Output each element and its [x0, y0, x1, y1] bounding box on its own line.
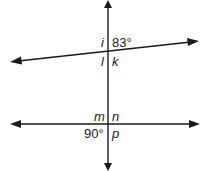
angle-label-k: k	[112, 54, 120, 69]
arrowhead-down-icon	[104, 163, 112, 171]
angle-label-i: i	[101, 35, 105, 50]
upper-line	[16, 42, 193, 62]
angle-label-p: p	[111, 126, 119, 141]
arrowhead-right-upper-icon	[187, 38, 199, 46]
angle-label-90: 90°	[84, 126, 104, 141]
geometry-diagram: i 83° l k m n 90° p	[0, 0, 208, 171]
angle-label-n: n	[112, 109, 119, 124]
arrowhead-left-lower-icon	[10, 120, 21, 128]
angle-label-m: m	[94, 109, 105, 124]
arrowhead-right-lower-icon	[189, 120, 200, 128]
arrowhead-left-upper-icon	[10, 57, 22, 65]
angle-label-l: l	[101, 54, 105, 69]
angle-label-83: 83°	[112, 35, 132, 50]
arrowhead-up-icon	[104, 0, 112, 8]
